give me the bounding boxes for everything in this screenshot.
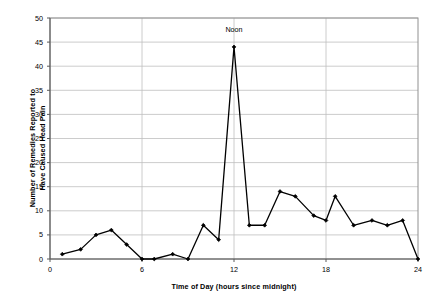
x-axis-title: Time of Day (hours since midnight)	[50, 282, 418, 291]
data-series-line	[62, 47, 418, 259]
x-axis-tick-label: 6	[132, 265, 152, 274]
data-point-marker	[324, 219, 328, 223]
data-point-marker	[152, 257, 156, 261]
data-point-marker	[186, 257, 190, 261]
x-axis-tick-label: 18	[316, 265, 336, 274]
chart-figure: Number of Remedies Reported to Have Caus…	[0, 0, 436, 305]
x-axis-tick-label: 12	[224, 265, 244, 274]
x-axis-tick-label: 24	[408, 265, 428, 274]
data-point-marker	[247, 223, 251, 227]
y-axis-tick-label: 0	[23, 255, 43, 264]
data-point-marker	[416, 257, 420, 261]
data-point-marker	[60, 252, 64, 256]
y-axis-tick-label: 30	[23, 110, 43, 119]
data-point-marker	[401, 219, 405, 223]
y-axis-tick-label: 40	[23, 62, 43, 71]
y-axis-tick-label: 45	[23, 38, 43, 47]
y-axis-title: Number of Remedies Reported to Have Caus…	[28, 48, 48, 248]
y-axis-tick-label: 50	[23, 14, 43, 23]
y-axis-tick-label: 20	[23, 158, 43, 167]
data-point-marker	[370, 219, 374, 223]
data-point-marker	[385, 223, 389, 227]
data-point-marker	[263, 223, 267, 227]
noon-annotation: Noon	[214, 25, 254, 34]
y-axis-tick-label: 10	[23, 206, 43, 215]
y-axis-tick-label: 35	[23, 86, 43, 95]
x-axis-tick-label: 0	[40, 265, 60, 274]
data-point-marker	[278, 190, 282, 194]
y-axis-tick-label: 25	[23, 134, 43, 143]
y-axis-tick-label: 5	[23, 230, 43, 239]
y-axis-tick-label: 15	[23, 182, 43, 191]
line-chart-plot	[0, 0, 436, 305]
data-point-marker	[232, 45, 236, 49]
data-point-marker	[171, 252, 175, 256]
